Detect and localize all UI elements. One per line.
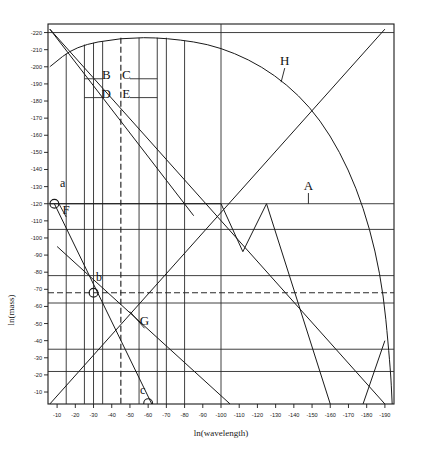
- x-tick-label: -160: [325, 412, 336, 418]
- annotation-a: a: [60, 176, 66, 190]
- y-tick-label: -40: [34, 338, 42, 344]
- x-tick-label: -50: [126, 412, 134, 418]
- annotation-E: E: [122, 86, 130, 101]
- x-tick-label: -190: [379, 412, 390, 418]
- annotation-G: G: [140, 313, 149, 328]
- y-tick-label: -210: [31, 47, 42, 53]
- leader-H: [281, 68, 285, 82]
- y-tick-label: -120: [31, 201, 42, 207]
- x-tick-label: -20: [71, 412, 79, 418]
- annotation-C: C: [122, 67, 131, 82]
- x-axis-ticks: [57, 404, 385, 408]
- annotation-A: A: [304, 178, 314, 193]
- x-axis-title: ln(wavelength): [194, 428, 248, 438]
- y-axis-title: ln(mass): [6, 295, 16, 326]
- x-tick-label: -30: [89, 412, 97, 418]
- y-tick-label: -140: [31, 166, 42, 172]
- x-tick-label: -110: [234, 412, 245, 418]
- annotation-labels: ABCDEFGHabc: [60, 53, 314, 397]
- y-tick-label: -200: [31, 64, 42, 70]
- curve-F-descender: [54, 204, 151, 404]
- y-tick-label: -80: [34, 269, 42, 275]
- annotation-D: D: [102, 86, 111, 101]
- chart-plot-area: -10-20-30-40-50-60-70-80-90-100-110-120-…: [0, 0, 424, 451]
- curve-zigzag-V: [50, 204, 330, 404]
- reference-lines: [48, 24, 394, 404]
- y-tick-label: -60: [34, 303, 42, 309]
- annotation-F: F: [63, 202, 70, 217]
- x-tick-label: -70: [162, 412, 170, 418]
- x-tick-label: -40: [108, 412, 116, 418]
- x-tick-label: -140: [288, 412, 299, 418]
- chart-figure: -10-20-30-40-50-60-70-80-90-100-110-120-…: [0, 0, 424, 451]
- y-tick-label: -10: [34, 389, 42, 395]
- x-axis-tick-labels: -10-20-30-40-50-60-70-80-90-100-110-120-…: [53, 412, 390, 418]
- x-tick-label: -150: [306, 412, 317, 418]
- x-tick-label: -170: [343, 412, 354, 418]
- x-tick-label: -180: [361, 412, 372, 418]
- curve-descending-main: [50, 29, 194, 216]
- y-tick-label: -50: [34, 321, 42, 327]
- x-tick-label: -90: [199, 412, 207, 418]
- y-tick-label: -150: [31, 149, 42, 155]
- annotation-c: c: [140, 383, 145, 397]
- y-tick-label: -110: [31, 218, 42, 224]
- annotation-H: H: [280, 53, 289, 68]
- y-tick-label: -100: [31, 235, 42, 241]
- annotation-b: b: [96, 270, 102, 284]
- y-axis-ticks: [44, 33, 48, 392]
- y-tick-label: -130: [31, 184, 42, 190]
- x-tick-label: -120: [252, 412, 263, 418]
- y-tick-label: -20: [34, 372, 42, 378]
- x-tick-label: -10: [53, 412, 61, 418]
- x-tick-label: -100: [215, 412, 226, 418]
- y-tick-label: -190: [31, 81, 42, 87]
- x-tick-label: -60: [144, 412, 152, 418]
- annotation-B: B: [102, 67, 111, 82]
- x-tick-label: -80: [181, 412, 189, 418]
- y-tick-label: -160: [31, 132, 42, 138]
- y-tick-label: -220: [31, 30, 42, 36]
- y-tick-label: -30: [34, 355, 42, 361]
- y-tick-label: -170: [31, 115, 42, 121]
- curve-bottom-right-V: [363, 341, 385, 404]
- y-tick-label: -70: [34, 286, 42, 292]
- x-tick-label: -130: [270, 412, 281, 418]
- y-axis-tick-labels: -220-210-200-190-180-170-160-150-140-130…: [31, 30, 42, 395]
- y-tick-label: -90: [34, 252, 42, 258]
- y-tick-label: -180: [31, 98, 42, 104]
